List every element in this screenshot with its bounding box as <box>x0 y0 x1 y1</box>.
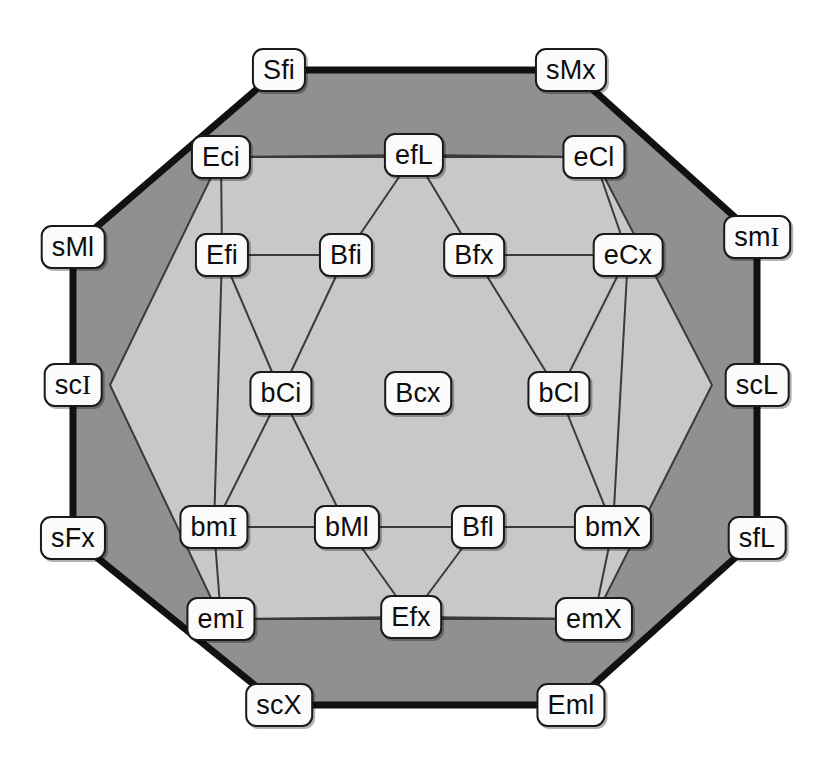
node-Bfx[interactable]: Bfx <box>443 233 505 277</box>
node-sMl[interactable]: sMl <box>41 225 106 269</box>
node-scX[interactable]: scX <box>245 683 313 727</box>
node-label: Eml <box>547 692 594 719</box>
node-label: emX <box>566 606 622 633</box>
node-emX[interactable]: emX <box>555 597 633 641</box>
node-Eml[interactable]: Eml <box>536 683 605 727</box>
node-scI[interactable]: scI <box>44 363 103 407</box>
node-label: Eci <box>202 144 240 171</box>
node-sfL[interactable]: sfL <box>728 516 787 560</box>
node-efL[interactable]: efL <box>384 133 444 177</box>
node-Bcx[interactable]: Bcx <box>384 371 452 415</box>
node-emI[interactable]: emI <box>186 597 255 641</box>
node-scL[interactable]: scL <box>725 363 790 407</box>
node-label: scL <box>736 372 779 399</box>
node-label: sMl <box>52 234 95 261</box>
node-label: eCl <box>573 144 614 171</box>
node-label: eCx <box>604 242 653 269</box>
node-Efi[interactable]: Efi <box>195 233 249 277</box>
node-label: sFx <box>51 525 95 552</box>
node-label: sMx <box>546 57 596 84</box>
node-label: sfL <box>739 525 776 552</box>
node-bCl[interactable]: bCl <box>527 371 590 415</box>
node-label: bCl <box>538 380 579 407</box>
node-smI[interactable]: smI <box>723 215 791 259</box>
node-label: smI <box>734 224 780 251</box>
node-sFx[interactable]: sFx <box>40 516 106 560</box>
node-label: Bcx <box>395 380 441 407</box>
node-label: bmX <box>585 514 641 541</box>
node-label: efL <box>395 142 433 169</box>
node-bmI[interactable]: bmI <box>179 505 248 549</box>
node-label: Efi <box>206 242 238 269</box>
diagram-canvas: SfisMxsmIscLsfLEmlscXsFxscIsMlEciefLeCle… <box>0 0 831 777</box>
node-label: emI <box>197 606 244 633</box>
node-Sfi[interactable]: Sfi <box>252 48 306 92</box>
node-Bfl[interactable]: Bfl <box>451 505 505 549</box>
node-Bfi[interactable]: Bfi <box>319 233 373 277</box>
node-label: Bfl <box>462 514 494 541</box>
node-label: bMl <box>325 514 369 541</box>
node-label: Bfi <box>330 242 362 269</box>
node-eCl[interactable]: eCl <box>562 135 625 179</box>
node-label: scI <box>55 372 92 399</box>
node-Eci[interactable]: Eci <box>191 135 251 179</box>
node-label: Efx <box>391 604 431 631</box>
node-label: bCi <box>260 380 301 407</box>
node-eCx[interactable]: eCx <box>593 233 664 277</box>
node-sMx[interactable]: sMx <box>535 48 607 92</box>
node-Efx[interactable]: Efx <box>380 595 442 639</box>
node-label: Sfi <box>263 57 295 84</box>
node-label: bmI <box>190 514 237 541</box>
node-bCi[interactable]: bCi <box>249 371 312 415</box>
node-label: Bfx <box>454 242 494 269</box>
node-bmX[interactable]: bmX <box>574 505 652 549</box>
node-bMl[interactable]: bMl <box>314 505 380 549</box>
node-label: scX <box>256 692 302 719</box>
